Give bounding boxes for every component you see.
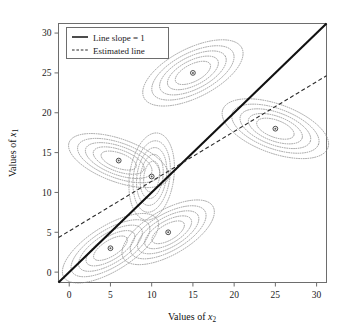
estimated-line-path: [59, 76, 327, 238]
scatter-plot-svg: 051015202530 051015202530 Values of x2 V…: [0, 0, 345, 329]
x-tick-label: 10: [147, 290, 157, 300]
cluster-center-6: [273, 126, 278, 131]
y-axis-title: Values of x1: [7, 129, 20, 177]
center-marker-dot: [192, 72, 194, 74]
y-tick-label: 5: [47, 228, 52, 238]
cluster-center-2: [116, 158, 121, 163]
x-axis-ticks: 051015202530: [67, 283, 322, 300]
cluster-center-4: [166, 230, 171, 235]
y-axis-ticks: 051015202530: [42, 28, 59, 277]
y-tick-label: 20: [42, 108, 52, 118]
legend-label-estimated-line: Estimated line: [93, 46, 145, 56]
y-tick-label: 25: [42, 68, 52, 78]
cluster-center-1: [108, 246, 113, 251]
legend-label-line-slope-1: Line slope = 1: [93, 33, 145, 43]
x-tick-label: 25: [271, 290, 281, 300]
y-tick-label: 0: [47, 268, 52, 278]
estimated-line: [59, 76, 327, 238]
y-tick-label: 15: [42, 148, 52, 158]
x-tick-label: 0: [67, 290, 72, 300]
center-marker-dot: [167, 231, 169, 233]
identity-line: [59, 24, 327, 283]
x-tick-label: 30: [312, 290, 322, 300]
cluster-center-5: [191, 71, 196, 76]
chart-figure: 051015202530 051015202530 Values of x2 V…: [0, 0, 345, 329]
contour-ellipses-group: [52, 26, 336, 296]
x-tick-label: 15: [188, 290, 198, 300]
center-marker-dot: [109, 247, 111, 249]
y-tick-label: 10: [42, 188, 52, 198]
y-tick-label: 30: [42, 28, 52, 38]
x-tick-label: 5: [108, 290, 113, 300]
center-marker-dot: [118, 160, 120, 162]
cluster-center-3: [149, 174, 154, 179]
x-axis-title: Values of x2: [168, 311, 216, 324]
chart-legend[interactable]: Line slope = 1 Estimated line: [67, 28, 169, 59]
identity-line-path: [59, 24, 327, 283]
center-marker-dot: [274, 128, 276, 130]
x-tick-label: 20: [229, 290, 239, 300]
center-marker-dot: [151, 176, 153, 178]
